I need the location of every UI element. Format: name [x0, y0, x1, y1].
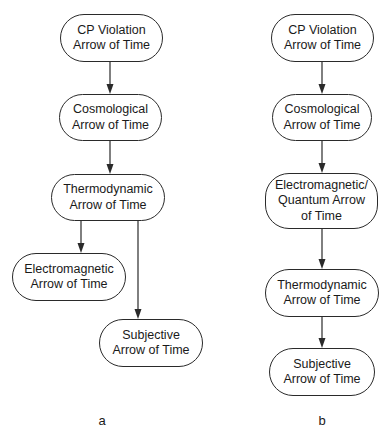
node-a-subj: SubjectiveArrow of Time [99, 319, 203, 367]
node-label-line: Cosmological [284, 102, 359, 118]
node-label-line: Arrow of Time [69, 198, 146, 214]
node-label-line: Electromagnetic/ [275, 178, 368, 194]
edge-b-thermo-to-subj [319, 317, 326, 348]
arrowhead-icon [319, 338, 326, 348]
node-b-subj: SubjectiveArrow of Time [269, 348, 375, 396]
edge-b-cosmo-to-emq [319, 141, 326, 173]
node-label-line: CP Violation [77, 23, 145, 39]
arrowhead-icon [135, 309, 142, 319]
panel-label-a: a [98, 413, 105, 428]
node-label-line: CP Violation [288, 23, 356, 39]
node-label-line: Electromagnetic [24, 262, 114, 278]
node-label-line: Arrow of Time [73, 38, 150, 54]
edge-a-cp-to-cosmo [107, 62, 114, 94]
node-label-line: Arrow of Time [30, 277, 107, 293]
node-label-line: Arrow of Time [112, 343, 189, 359]
node-label-line: Arrow of Time [283, 293, 360, 309]
node-a-cp: CP ViolationArrow of Time [60, 14, 163, 62]
arrowhead-icon [107, 84, 114, 94]
node-b-emq: Electromagnetic/Quantum Arrowof Time [265, 173, 378, 229]
edge-a-cosmo-to-thermo [107, 141, 114, 174]
node-label-line: Thermodynamic [277, 278, 367, 294]
node-b-thermo: ThermodynamicArrow of Time [265, 269, 379, 317]
node-label-line: Cosmological [73, 102, 148, 118]
node-label-line: Thermodynamic [63, 182, 153, 198]
edge-a-thermo-to-subj [135, 221, 142, 319]
edge-b-emq-to-thermo [319, 229, 326, 269]
arrowhead-icon [107, 164, 114, 174]
arrowhead-icon [319, 163, 326, 173]
node-label-line: Arrow of Time [283, 118, 360, 134]
node-label-line: Arrow of Time [283, 372, 360, 388]
arrowhead-icon [319, 84, 326, 94]
edge-a-thermo-to-em [78, 221, 85, 253]
node-label-line: Quantum Arrow [278, 193, 365, 209]
node-a-cosmo: CosmologicalArrow of Time [59, 94, 162, 141]
node-label-line: of Time [301, 209, 342, 225]
node-label-line: Subjective [293, 357, 351, 373]
node-label-line: Arrow of Time [72, 118, 149, 134]
arrowhead-icon [78, 243, 85, 253]
node-a-thermo: ThermodynamicArrow of Time [51, 174, 165, 221]
edge-b-cp-to-cosmo [319, 62, 326, 94]
panel-label-b: b [318, 413, 325, 428]
node-b-cosmo: CosmologicalArrow of Time [272, 94, 372, 141]
node-a-em: ElectromagneticArrow of Time [12, 253, 126, 301]
node-label-line: Arrow of Time [284, 38, 361, 54]
arrowhead-icon [319, 259, 326, 269]
node-label-line: Subjective [122, 328, 180, 344]
node-b-cp: CP ViolationArrow of Time [271, 14, 374, 62]
